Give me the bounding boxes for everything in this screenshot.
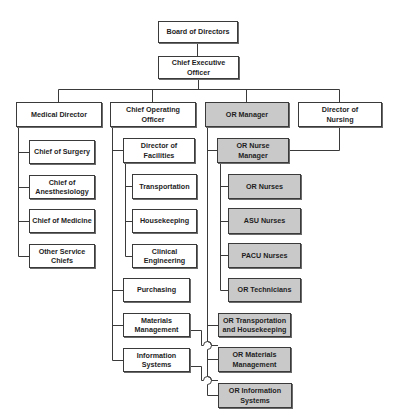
node-label: ASU Nurses	[244, 216, 286, 225]
node-clinical-engineering: Clinical Engineering	[132, 244, 197, 268]
node-or-manager: OR Manager	[205, 102, 289, 127]
node-label: OR Materials Management	[233, 350, 277, 369]
node-chief-operating-officer: Chief Operating Officer	[110, 102, 196, 127]
node-chief-executive-officer: Chief Executive Officer	[158, 56, 239, 79]
node-or-materials-management: OR Materials Management	[218, 347, 291, 372]
node-label: Chief of Anesthesiology	[35, 178, 89, 197]
node-or-nurse-manager: OR Nurse Manager	[217, 138, 289, 163]
node-asu-nurses: ASU Nurses	[228, 208, 301, 234]
node-or-technicians: OR Technicians	[228, 278, 301, 302]
node-label: Chief of Surgery	[34, 147, 90, 156]
node-label: OR Transportation and Housekeeping	[223, 316, 287, 335]
node-label: Clinical Engineering	[144, 247, 186, 266]
node-label: Housekeeping	[140, 216, 189, 225]
node-label: Transportation	[139, 182, 189, 191]
node-label: Purchasing	[137, 285, 176, 294]
node-label: Other Service Chiefs	[39, 247, 86, 266]
node-label: PACU Nurses	[241, 251, 287, 260]
node-materials-management: Materials Management	[123, 313, 190, 337]
node-or-nurses: OR Nurses	[228, 174, 301, 199]
node-label: Chief Executive Officer	[172, 58, 226, 77]
node-other-service-chiefs: Other Service Chiefs	[29, 244, 95, 268]
node-pacu-nurses: PACU Nurses	[228, 243, 301, 268]
node-label: Chief of Medicine	[32, 216, 92, 225]
node-medical-director: Medical Director	[16, 102, 102, 127]
node-label: OR Technicians	[238, 285, 292, 294]
node-chief-of-medicine: Chief of Medicine	[29, 209, 95, 233]
node-housekeeping: Housekeeping	[132, 209, 197, 233]
node-transportation: Transportation	[132, 174, 197, 199]
node-director-of-facilities: Director of Facilities	[123, 138, 195, 163]
node-or-information-systems: OR Information Systems	[218, 383, 292, 408]
node-director-of-nursing: Director of Nursing	[298, 102, 382, 127]
node-label: Director of Facilities	[141, 141, 177, 160]
node-label: OR Manager	[226, 110, 268, 119]
node-label: Director of Nursing	[322, 105, 358, 124]
node-label: Board of Directors	[166, 27, 229, 36]
node-label: Medical Director	[31, 110, 87, 119]
node-information-systems: Information Systems	[123, 348, 190, 372]
node-label: Materials Management	[135, 316, 179, 335]
node-label: OR Information Systems	[229, 386, 281, 405]
node-label: Information Systems	[137, 351, 177, 370]
node-purchasing: Purchasing	[123, 278, 190, 302]
node-board-of-directors: Board of Directors	[158, 21, 238, 43]
node-or-transportation-housekeeping: OR Transportation and Housekeeping	[218, 313, 291, 337]
node-label: OR Nurses	[246, 182, 283, 191]
node-chief-of-surgery: Chief of Surgery	[29, 140, 95, 164]
node-chief-of-anesthesiology: Chief of Anesthesiology	[29, 175, 95, 199]
org-chart: Board of Directors Chief Executive Offic…	[0, 0, 398, 420]
node-label: Chief Operating Officer	[126, 105, 180, 124]
node-label: OR Nurse Manager	[236, 141, 269, 160]
